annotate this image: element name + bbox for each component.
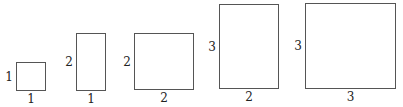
rectangle-5: [305, 3, 396, 89]
width-label: 2: [160, 92, 168, 104]
rectangle-1: [16, 62, 46, 91]
height-label: 3: [294, 40, 302, 52]
height-label: 2: [65, 56, 73, 68]
rectangle-sequence-diagram: 1121223233: [0, 0, 403, 107]
height-label: 3: [208, 41, 216, 53]
rectangle-3: [134, 33, 194, 90]
width-label: 3: [347, 91, 355, 103]
height-label: 2: [123, 56, 131, 68]
width-label: 2: [245, 91, 253, 103]
width-label: 1: [27, 93, 35, 105]
rectangle-2: [76, 33, 106, 91]
height-label: 1: [5, 71, 13, 83]
width-label: 1: [87, 93, 95, 105]
rectangle-4: [219, 4, 279, 89]
